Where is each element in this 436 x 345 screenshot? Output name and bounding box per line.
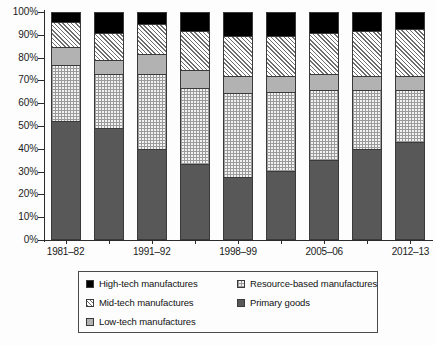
bar-segment-primary-goods [267,171,295,239]
y-axis-label: 40% [0,144,38,154]
bar-segment-low-tech-manufactures [396,76,424,90]
legend-item-label: High-tech manufactures [99,279,198,289]
bar-2002-03 [266,12,296,240]
bar-segment-primary-goods [52,121,80,239]
bar-segment-high-tech-manufactures [224,13,252,36]
y-axis-label: 70% [0,75,38,85]
x-axis-line [41,240,433,241]
bar-segment-mid-tech-manufactures [353,31,381,76]
x-axis-tick [66,240,67,244]
legend-swatch-icon [86,318,94,326]
bar-1998-99 [223,12,253,240]
legend-swatch-icon [237,280,245,288]
bar-segment-primary-goods [310,160,338,239]
x-axis-label: 2005–06 [289,247,359,257]
bar-segment-mid-tech-manufactures [52,22,80,47]
bar-segment-primary-goods [396,142,424,239]
bar-segment-low-tech-manufactures [267,76,295,92]
y-axis-label: 10% [0,212,38,222]
bar-segment-high-tech-manufactures [138,13,166,24]
bar-segment-high-tech-manufactures [181,13,209,31]
bar-segment-mid-tech-manufactures [267,36,295,77]
x-axis-label: 1991–92 [117,247,187,257]
bar-segment-resource-based-manufactures [138,74,166,149]
bar-segment-primary-goods [181,164,209,239]
bar-2005-06 [309,12,339,240]
bar-1991-92 [137,12,167,240]
bar-segment-low-tech-manufactures [310,74,338,90]
bar-segment-primary-goods [138,149,166,239]
legend-item-high-tech-manufactures[interactable]: High-tech manufactures [86,279,198,289]
legend-swatch-icon [86,280,94,288]
bar-segment-primary-goods [95,128,123,239]
bar-segment-low-tech-manufactures [353,76,381,90]
y-axis-label: 20% [0,189,38,199]
bar-1995-96 [180,12,210,240]
y-axis-label: 30% [0,167,38,177]
plot-area [44,12,432,240]
x-axis-tick [238,240,239,244]
x-axis-tick [152,240,153,244]
x-axis-tick [281,240,282,244]
bar-segment-low-tech-manufactures [52,47,80,65]
bar-segment-mid-tech-manufactures [95,33,123,60]
bar-segment-resource-based-manufactures [396,90,424,142]
bar-2012-13 [395,12,425,240]
y-axis-label: 80% [0,53,38,63]
x-axis-tick [410,240,411,244]
x-axis-label: 2012–13 [375,247,436,257]
bar-segment-high-tech-manufactures [95,13,123,33]
legend-item-label: Low-tech manufactures [99,317,196,327]
y-axis-label: 50% [0,121,38,131]
legend-item-label: Resource-based manufactures [250,279,377,289]
bar-1981-82 [51,12,81,240]
bar-segment-resource-based-manufactures [95,74,123,128]
legend-item-resource-based-manufactures[interactable]: Resource-based manufactures [237,279,377,289]
stacked-bar-chart: 0%10%20%30%40%50%60%70%80%90%100% 1981–8… [0,0,436,345]
bar-segment-low-tech-manufactures [181,70,209,88]
legend-item-primary-goods[interactable]: Primary goods [237,298,310,308]
legend-swatch-icon [237,299,245,307]
bar-segment-resource-based-manufactures [310,90,338,160]
bar-segment-low-tech-manufactures [138,54,166,74]
bar-segment-primary-goods [224,177,252,239]
x-axis-label: 1998–99 [203,247,273,257]
y-axis-label: 0% [0,235,38,245]
bar-segment-mid-tech-manufactures [138,24,166,53]
bar-segment-resource-based-manufactures [267,92,295,171]
bar-segment-low-tech-manufactures [95,60,123,74]
legend-item-low-tech-manufactures[interactable]: Low-tech manufactures [86,317,196,327]
bar-2009-10 [352,12,382,240]
bar-segment-high-tech-manufactures [396,13,424,29]
x-axis-tick [195,240,196,244]
x-axis-tick [367,240,368,244]
x-axis-tick [324,240,325,244]
x-axis-tick [109,240,110,244]
y-axis-label: 60% [0,98,38,108]
bar-segment-resource-based-manufactures [52,65,80,122]
bar-1985-86 [94,12,124,240]
bar-segment-low-tech-manufactures [224,76,252,93]
bar-segment-primary-goods [353,149,381,239]
bar-segment-high-tech-manufactures [52,13,80,22]
y-axis-label: 100% [0,7,38,17]
bar-segment-resource-based-manufactures [181,88,209,165]
x-axis-label: 1981–82 [31,247,101,257]
y-axis-tick [38,240,45,241]
bar-segment-mid-tech-manufactures [224,36,252,77]
y-axis-label: 90% [0,30,38,40]
legend-item-mid-tech-manufactures[interactable]: Mid-tech manufactures [86,298,194,308]
bar-segment-resource-based-manufactures [224,93,252,177]
legend-swatch-icon [86,299,94,307]
bar-segment-high-tech-manufactures [310,13,338,33]
chart-legend: High-tech manufacturesMid-tech manufactu… [78,271,378,333]
bar-segment-mid-tech-manufactures [310,33,338,74]
bar-segment-resource-based-manufactures [353,90,381,149]
bar-segment-mid-tech-manufactures [181,31,209,69]
bar-segment-mid-tech-manufactures [396,29,424,76]
bar-segment-high-tech-manufactures [353,13,381,31]
legend-item-label: Mid-tech manufactures [99,298,194,308]
bar-segment-high-tech-manufactures [267,13,295,36]
legend-item-label: Primary goods [250,298,310,308]
